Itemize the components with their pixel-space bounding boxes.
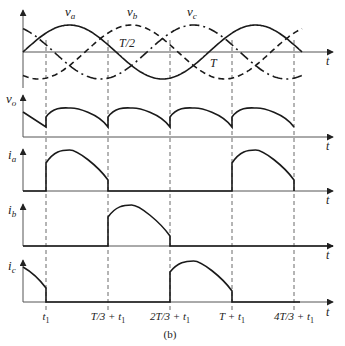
ic-label: ic <box>8 258 16 275</box>
t-axis-label: t <box>326 139 330 153</box>
ia-curve <box>23 150 294 191</box>
panel-vo: vo t <box>6 91 333 153</box>
t-axis-label: t <box>326 248 330 262</box>
panel-phase-voltages: va vb vc T/2 T t <box>23 4 333 88</box>
ia-label: ia <box>8 147 17 164</box>
figure-caption: (b) <box>164 328 177 341</box>
t-axis-label: t <box>326 305 330 319</box>
tick-t-plus-t1: T + t1 <box>219 310 245 325</box>
vc-label: vc <box>187 4 197 21</box>
panel-ib: ib t <box>8 202 333 262</box>
tick-t1: t1 <box>42 310 49 325</box>
tick-4t3-plus-t1: 4T/3 + t1 <box>274 310 314 325</box>
panel-ia: ia t <box>8 147 333 207</box>
vo-label: vo <box>6 91 17 108</box>
three-phase-rectifier-waveforms: va vb vc T/2 T t vo t ia t ib t ic t <box>0 0 345 346</box>
ic-curve <box>23 261 300 302</box>
time-tick-labels: t1 T/3 + t1 2T/3 + t1 T + t1 4T/3 + t1 (… <box>42 310 314 341</box>
va-label: va <box>65 4 76 21</box>
tick-t3-plus-t1: T/3 + t1 <box>91 310 126 325</box>
vo-curve <box>23 108 294 127</box>
vb-label: vb <box>127 4 138 21</box>
t-axis-label: t <box>326 54 330 68</box>
time-marker-lines <box>46 40 294 310</box>
half-period-label: T/2 <box>119 36 135 50</box>
tick-2t3-plus-t1: 2T/3 + t1 <box>150 310 190 325</box>
ib-label: ib <box>8 202 17 219</box>
ib-curve <box>23 205 333 246</box>
t-axis-label: t <box>326 193 330 207</box>
period-label: T <box>210 56 218 70</box>
